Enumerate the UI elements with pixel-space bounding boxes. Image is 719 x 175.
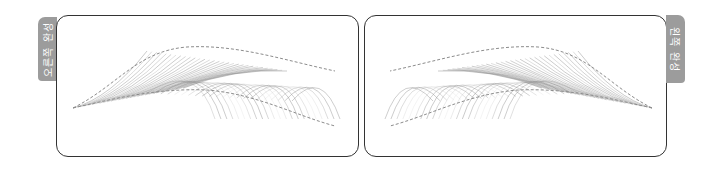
left-eyebrow-panel [364,15,667,157]
eyebrow-illustration-left [365,16,668,158]
left-eyebrow-tab-label: 왼쪽 완성 [668,27,683,71]
left-eyebrow-tab: 왼쪽 완성 [666,15,685,83]
right-eyebrow-tab: 오른쪽 완성 [38,17,57,81]
eyebrow-illustration-right [57,16,360,158]
right-eyebrow-panel [56,15,359,157]
right-eyebrow-tab-label: 오른쪽 완성 [40,22,55,76]
